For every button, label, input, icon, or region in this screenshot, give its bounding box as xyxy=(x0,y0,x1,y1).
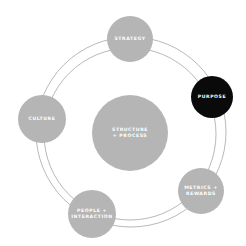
node-label-line-2: INTERACTION xyxy=(71,214,112,221)
node-label-line-2: REWARDS xyxy=(186,191,216,198)
node-structure-process: STRUCTURE + PROCESS xyxy=(92,95,168,171)
node-people-interaction: PEOPLE + INTERACTION xyxy=(68,190,116,238)
organization-model-diagram: STRUCTURE + PROCESS STRATEGY PURPOSE MET… xyxy=(0,0,246,246)
node-metrics-rewards: METRICS + REWARDS xyxy=(178,168,224,214)
node-label: CULTURE xyxy=(28,116,55,123)
node-label: PURPOSE xyxy=(198,94,227,101)
node-strategy: STRATEGY xyxy=(107,16,153,62)
node-label-line-2: + PROCESS xyxy=(113,133,148,140)
node-purpose: PURPOSE xyxy=(191,76,233,118)
node-label: STRATEGY xyxy=(114,36,145,43)
node-culture: CULTURE xyxy=(18,95,66,143)
